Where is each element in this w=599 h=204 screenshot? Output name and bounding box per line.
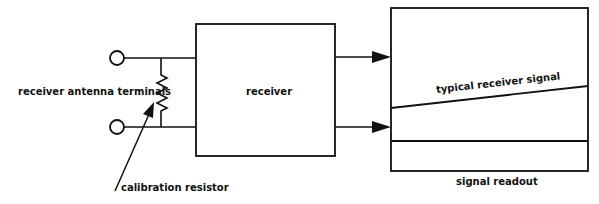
receiver-label: receiver <box>246 86 292 97</box>
top-terminal <box>110 51 124 65</box>
typical-signal-trace <box>391 86 588 108</box>
block-diagram <box>0 0 599 204</box>
top-output-arrowhead-icon <box>372 51 391 63</box>
calibration-pointer-line <box>115 112 150 191</box>
bottom-terminal <box>110 120 124 134</box>
calibration-resistor-label: calibration resistor <box>121 182 229 193</box>
bottom-output-arrowhead-icon <box>372 121 391 133</box>
calibration-arrowhead-icon <box>143 102 154 118</box>
antenna-terminals-label: receiver antenna terminals <box>18 86 171 97</box>
signal-readout-label: signal readout <box>456 176 538 187</box>
